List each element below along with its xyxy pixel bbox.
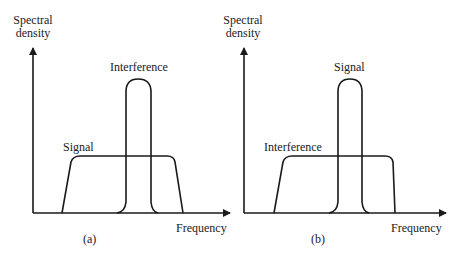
wide-spectrum-b bbox=[274, 156, 395, 213]
wide-spectrum-a bbox=[62, 156, 183, 213]
wide-label-a: Signal bbox=[63, 141, 94, 154]
y-axis-label-b: Spectral density bbox=[218, 14, 268, 40]
narrow-label-a: Interference bbox=[110, 61, 168, 74]
narrow-spectrum-a bbox=[117, 79, 158, 213]
narrow-label-b: Signal bbox=[334, 61, 365, 74]
caption-b: (b) bbox=[311, 233, 325, 246]
x-axis-label-b: Frequency bbox=[391, 222, 442, 235]
y-axis-label-a: Spectral density bbox=[8, 14, 58, 40]
y-label-line2: density bbox=[218, 27, 268, 40]
y-label-line2: density bbox=[8, 27, 58, 40]
wide-label-b: Interference bbox=[264, 141, 322, 154]
x-axis-label-a: Frequency bbox=[176, 222, 227, 235]
caption-a: (a) bbox=[83, 233, 96, 246]
narrow-spectrum-b bbox=[329, 79, 369, 213]
